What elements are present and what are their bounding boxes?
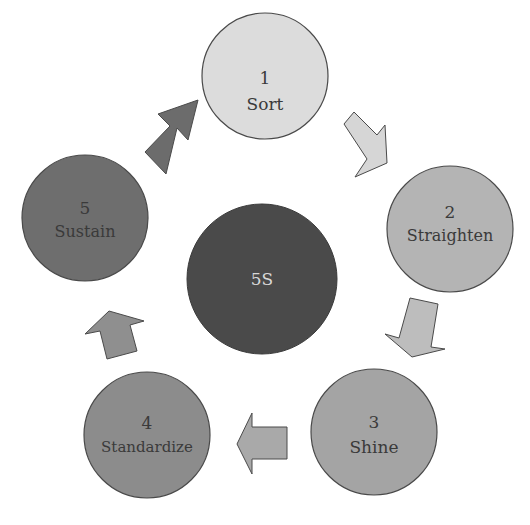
- arrow-icon: [385, 298, 445, 357]
- step-label: Sort: [247, 94, 284, 114]
- step-straighten: 2 Straighten: [387, 166, 513, 292]
- step-number: 4: [142, 413, 153, 433]
- step-label: Standardize: [101, 438, 193, 456]
- five-s-cycle-diagram: 1 Sort 2 Straighten 3 Shine 4 Standardiz…: [0, 0, 530, 525]
- arrow-icon: [145, 100, 198, 174]
- arrow-standardize-to-sustain: [85, 311, 144, 359]
- arrow-sort-to-straighten: [344, 112, 387, 177]
- step-label: Sustain: [55, 222, 116, 241]
- step-number: 1: [260, 68, 271, 88]
- step-label: Straighten: [407, 226, 493, 245]
- arrow-icon: [237, 413, 287, 474]
- step-sort: 1 Sort: [202, 13, 328, 139]
- arrow-sustain-to-sort: [145, 100, 198, 174]
- step-circle: [311, 369, 437, 495]
- step-circle: [84, 372, 210, 498]
- step-shine: 3 Shine: [311, 369, 437, 495]
- center-label: 5S: [251, 269, 273, 289]
- step-standardize: 4 Standardize: [84, 372, 210, 498]
- step-number: 2: [445, 202, 456, 222]
- arrow-icon: [344, 112, 387, 177]
- step-label: Shine: [349, 437, 398, 457]
- step-number: 3: [369, 412, 380, 432]
- step-circle: [22, 155, 148, 281]
- step-sustain: 5 Sustain: [22, 155, 148, 281]
- center-5s: 5S: [187, 204, 337, 354]
- step-number: 5: [80, 198, 91, 218]
- arrow-icon: [85, 311, 144, 359]
- arrow-straighten-to-shine: [385, 298, 445, 357]
- arrow-shine-to-standardize: [237, 413, 287, 474]
